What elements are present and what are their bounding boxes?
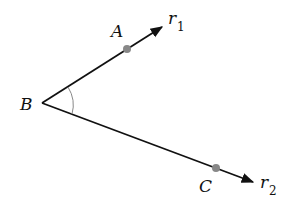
angle-diagram: A B C r 1 r 2: [0, 0, 298, 214]
label-r1: r: [168, 8, 177, 28]
label-r1-sub: 1: [177, 20, 185, 34]
label-c: C: [199, 176, 212, 196]
point-a: [123, 45, 131, 53]
ray-r2: [42, 103, 253, 182]
angle-arc: [68, 87, 73, 114]
point-c: [212, 164, 220, 172]
label-a: A: [109, 21, 123, 41]
ray-r1: [42, 27, 162, 103]
label-b: B: [19, 94, 33, 114]
label-r2-sub: 2: [269, 184, 277, 198]
label-r2: r: [260, 172, 269, 192]
